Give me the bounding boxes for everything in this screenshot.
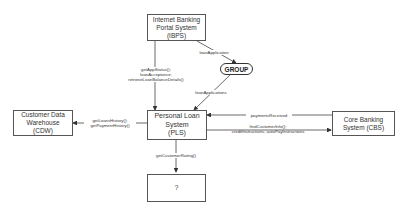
node-cdw: Customer Data Warehouse (CDW) xyxy=(13,110,73,136)
edge-label-pls-unknown: getCustomerRating() xyxy=(150,153,202,158)
edge-label-ibps-group: loanApplication xyxy=(194,50,234,55)
edge-label-pls-cbs: findCustomerInfo(); creditInstructions; … xyxy=(222,124,314,134)
node-group: GROUP xyxy=(220,63,253,75)
edge-label-ibps-pls: getAppStatus(); loanAcceptance; retrieve… xyxy=(121,67,191,82)
edge-label-cbs-pls: paymentsReceived xyxy=(246,113,292,118)
node-pls: Personal Loan System (PLS) xyxy=(147,110,207,140)
edge-label-group-pls: loanApplications xyxy=(190,90,232,95)
node-ibps: Internet Banking Portal System (IBPS) xyxy=(147,14,206,41)
node-unknown: ? xyxy=(147,174,206,202)
node-cbs: Core Banking System (CBS) xyxy=(332,111,395,136)
edge-label-pls-cdw: getLoansHistory(); getPaymentHistory() xyxy=(84,118,136,128)
